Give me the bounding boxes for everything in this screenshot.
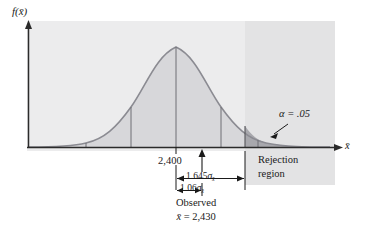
observed-bracket-subscript: x̄ (201, 188, 204, 194)
rejection-region-line-1: Rejection (258, 155, 298, 166)
critical-bracket-subscript: x̄ (212, 176, 215, 182)
rejection-region-line-2: region (258, 169, 298, 180)
observed-caption-value: x̄ = 2,430 (176, 212, 216, 223)
observed-caption-word: Observed (176, 198, 216, 209)
critical-bracket-left-arrowhead (177, 176, 184, 182)
y-axis-label-text: f(x̄) (12, 5, 27, 17)
alpha-label: α = .05 (279, 109, 310, 120)
alpha-symbol-text: α = .05 (279, 108, 310, 119)
x-axis-arrowhead (334, 144, 343, 151)
mean-value-text: 2,400 (158, 155, 182, 166)
observed-caption: Observed x̄ = 2,430 (176, 198, 216, 222)
normal-curve-figure: f(x̄) x̄ 2,400 α = .05 Rejection region … (0, 0, 365, 239)
observed-bracket-label: 1.06σx̄ (180, 184, 204, 195)
critical-bracket-coefficient: 1.645 (186, 171, 207, 181)
y-axis-label: f(x̄) (12, 6, 27, 17)
x-axis-label: x̄ (345, 141, 350, 152)
mean-value-label: 2,400 (158, 156, 182, 167)
rejection-region-label: Rejection region (258, 155, 298, 179)
critical-bracket-label: 1.645σx̄ (186, 172, 215, 183)
critical-bracket-right-arrowhead (237, 176, 244, 182)
observed-bracket-coefficient: 1.06 (180, 183, 197, 193)
observed-xbar-value: = 2,430 (181, 211, 216, 222)
x-axis-label-text: x̄ (345, 140, 350, 151)
